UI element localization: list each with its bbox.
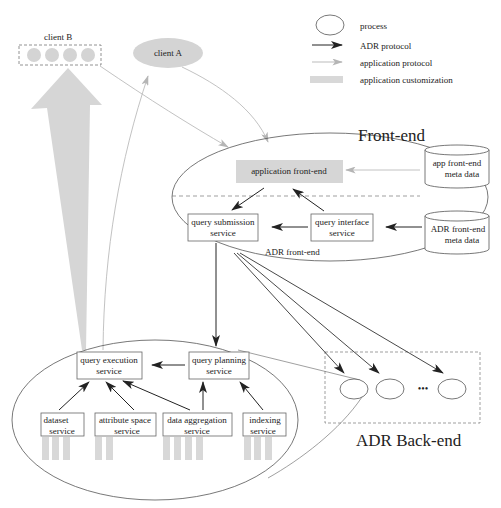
legend-customization-icon <box>310 76 343 83</box>
query-planning-label-2: service <box>206 366 231 376</box>
legend-customization-label: application customization <box>360 75 453 85</box>
adr-arrow-appfe-to-qsub <box>232 188 264 210</box>
query-execution-label-2: service <box>96 366 121 376</box>
customization-bars <box>42 437 272 460</box>
adr-arrow-qint-to-appfe <box>293 189 324 211</box>
adr-arrow-attr-to-qexec <box>106 382 134 410</box>
app-meta-label-2: meta data <box>445 169 480 179</box>
dataset-label-2: service <box>49 426 74 436</box>
app-arrow-clientb-to-appfe <box>100 66 228 147</box>
application-frontend-label: application front-end <box>251 166 327 176</box>
client-b: client B <box>19 32 101 65</box>
adr-frontend-meta-cylinder: ADR front-end meta data <box>425 211 489 254</box>
client-a: client A <box>133 38 203 68</box>
query-interface-label-2: service <box>329 228 354 238</box>
legend-process-icon <box>316 15 344 35</box>
adr-meta-label-2: meta data <box>445 235 480 245</box>
adr-arrow-qsub-to-noden <box>240 253 443 373</box>
app-arrow-clienta-to-appfe <box>182 67 268 142</box>
query-planning-label-1: query planning <box>192 355 247 365</box>
legend-process-label: process <box>360 21 387 31</box>
client-b-label: client B <box>44 32 72 42</box>
adr-arrow-dataset-to-qexec <box>59 382 89 410</box>
legend: process ADR protocol application protoco… <box>310 15 453 85</box>
legend-app-label: application protocol <box>360 58 433 68</box>
data-aggregation-label-1: data aggregation <box>167 415 227 425</box>
app-meta-label-1: app front-end <box>433 158 482 168</box>
frontend-title: Front-end <box>358 126 426 145</box>
adr-frontend-label: ADR front-end <box>265 247 320 257</box>
adr-architecture-diagram: process ADR protocol application protoco… <box>0 0 501 508</box>
query-execution-label-1: query execution <box>80 355 138 365</box>
adr-arrow-agg-to-qexec <box>123 381 190 410</box>
client-a-label: client A <box>154 48 183 58</box>
indexing-label-2: service <box>250 426 275 436</box>
indexing-label-1: indexing <box>249 415 281 425</box>
app-arrow-qes-to-clienta <box>103 76 148 350</box>
attribute-space-label-2: service <box>114 426 139 436</box>
dataset-label-1: dataset <box>44 415 69 425</box>
backend-node-n <box>438 379 466 399</box>
app-frontend-meta-cylinder: app front-end meta data <box>425 145 489 188</box>
adr-meta-label-1: ADR front-end <box>431 224 486 234</box>
query-interface-label-1: query interface <box>315 217 369 227</box>
attribute-space-label-1: attribute space <box>99 415 151 425</box>
data-aggregation-label-2: service <box>184 426 209 436</box>
query-submission-label-2: service <box>210 228 235 238</box>
customization-arrow <box>31 68 102 350</box>
adr-arrow-index-to-qplan <box>240 382 263 410</box>
adr-arrow-qsub-to-node1 <box>234 253 344 373</box>
query-submission-label-1: query submission <box>191 217 255 227</box>
backend-ellipsis: ••• <box>418 383 429 394</box>
backend-node-2 <box>376 379 404 399</box>
legend-adr-label: ADR protocol <box>360 41 412 51</box>
backend-node-1 <box>340 379 368 399</box>
backend-title: ADR Back-end <box>356 431 462 450</box>
